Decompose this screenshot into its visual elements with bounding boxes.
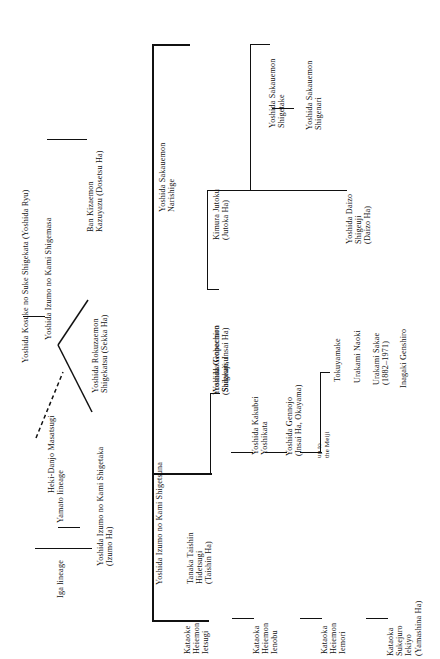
node-iga-lineage: Iga lineage [56,540,65,598]
connector-spine-to-taishin [152,473,212,475]
connector-kosuke-shigemasa [23,316,45,317]
node-goheemon: Yoshida Goheemon Sadakatsu [212,300,230,392]
node-kakubei: Yoshida Kakubei Yoshikata [251,385,269,455]
connector-kakubei-gennojo [265,452,287,453]
node-ban-kizaemon: Ban Kizaemon Kazuyazu (Dosetsu Ha) [86,112,104,232]
node-shigenari: Yoshida Sakauemon Shigenari [305,18,323,130]
connector-branch-to-daizo [250,190,347,191]
connector-iemori-iekiyo [366,618,388,619]
genealogy-chart: Heki-Danjo Masatsugi Iga lineage Yamato … [0,0,440,659]
node-shigetsuna: Yoshida Izumo no Kami Shigetsuna [155,420,164,585]
node-urakami-sakae: Urakami Sakae (1882–1971) [372,325,390,385]
connector-gennojo-top-tick [320,372,330,373]
node-tokuyamake: Tokuyamake [333,330,342,382]
node-gennojo: Yoshida Gennojo (Insai Ha, Okayama) [285,366,303,456]
node-kimura-jutoku: Kimura Jutoku (Jutoka Ha) [212,148,230,240]
node-up-to-meiji: up to the Meiji [316,424,332,458]
node-yamato-lineage: Yamato lineage [56,445,65,523]
node-tanaka-taishin: Tanaka Taishin Hidetsugi (Taishin Ha) [186,476,214,584]
connector-goheemon-tick [210,393,220,394]
node-yoshida-kosuke: Yoshida Kosuke no Suke Shigekata (Yoshid… [21,105,30,363]
connector-spine-top [152,44,190,46]
main-spine [152,44,154,622]
connector-ietsugi-ienobu [232,618,254,619]
node-inagaki-genshiro: Inagaki Genshiro [399,322,408,388]
connector-iga-yamato [58,527,80,528]
connector-narishige-to-shigetake [250,44,270,45]
connector-branch-right [250,44,251,191]
node-kataoka-iekiyo: Kataoka Sukejuro Iekiyo (Yamashina Ha) [386,566,423,656]
connector-goheemon-kakubei [231,452,253,453]
node-shigetake: Yoshida Sakauemon Shigetake [268,18,286,128]
connector-kimura-vert [207,190,208,290]
node-kataoka-ienobu: Kataoka Heiemon Ienobu [252,592,280,654]
node-rokuzaemon: Yoshida Rokuzaemon Shigekatsu (Sekka Ha) [91,275,109,393]
node-daizo: Yoshida Daizo Shigeuji (Daizo Ha) [345,142,373,244]
node-narishige: Yoshida Sakauemon Narishige [158,100,176,212]
node-urakami-naoki: Urakami Naoki [353,325,362,383]
node-heki-danjo: Heki-Danjo Masatsugi [47,373,56,493]
node-shigetaka: Yoshida Izumo no Kami Shigetaka (Izumo H… [96,416,114,566]
node-kataoka-iemori: Kataoka Heiemon Iemori [320,592,348,654]
node-shigemasa: Yoshida Izumo no Kami Shigemasa [44,140,53,340]
connector-goheemon-vert [210,393,211,474]
connector-ienobu-iemori [300,618,322,619]
node-kataoke-ietsugi: Kataoke Heiemon Ietsugi [183,592,211,654]
connector-shigetake-shigenari [272,108,294,109]
connector-shigemasa-to-ban [47,139,87,140]
